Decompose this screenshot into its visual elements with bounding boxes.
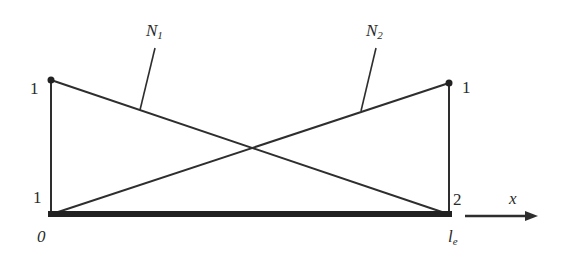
left-coordinate: 0 (37, 228, 46, 245)
n2-label: N2 (366, 22, 383, 41)
n2-leader-line (361, 48, 376, 111)
right-top-value: 1 (462, 79, 471, 96)
right-node-number: 2 (453, 191, 462, 208)
n1-line (51, 80, 445, 213)
right-coordinate: le (448, 228, 458, 247)
right-node-dot (446, 80, 453, 87)
left-top-value: 1 (30, 80, 39, 97)
shape-function-diagram: N1 N2 1 1 0 1 2 le x (0, 0, 564, 258)
n1-leader-line (140, 48, 155, 110)
x-axis-arrowhead-icon (525, 211, 538, 221)
element-bar (48, 211, 452, 217)
x-axis-label: x (509, 190, 517, 207)
left-node-dot (48, 77, 55, 84)
left-node-number: 1 (33, 189, 42, 206)
diagram-canvas (0, 0, 564, 258)
n1-label: N1 (146, 22, 163, 41)
